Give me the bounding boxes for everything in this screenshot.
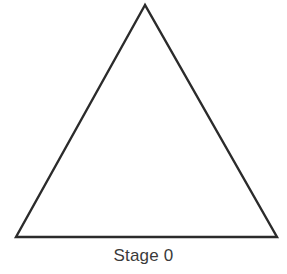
triangle-icon	[0, 0, 287, 274]
sierpinski-stage-figure: Stage 0	[0, 0, 287, 274]
stage-caption: Stage 0	[0, 246, 287, 266]
stage-triangle	[16, 5, 277, 237]
